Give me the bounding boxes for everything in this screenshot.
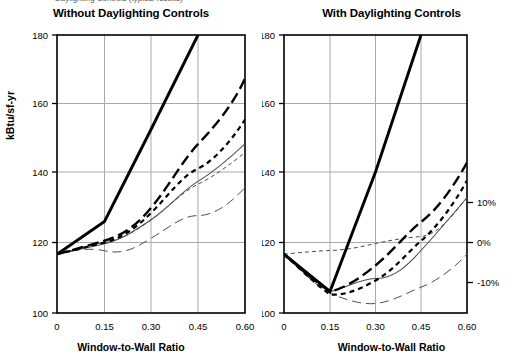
y-tick-160-right: 160 [262, 98, 275, 109]
y-tick-100-left: 100 [32, 308, 48, 319]
plot-right: 180 160 140 120 100 0 0.15 0.30 0.45 0.6… [262, 0, 521, 359]
x-tick-030-right: 0.30 [366, 321, 385, 332]
x-tick-015-left: 0.15 [95, 321, 114, 332]
y-tick-120-left: 120 [32, 237, 48, 248]
x-tick-0-right: 0 [281, 321, 286, 332]
y-tick-120-right: 120 [262, 237, 275, 248]
panel-without-daylighting: Without Daylighting Controls kBtu/sf-yr … [0, 0, 262, 359]
y-tick-160-left: 160 [32, 98, 48, 109]
panel-with-daylighting: With Daylighting Controls Window-to-Wall… [262, 0, 521, 359]
x-tick-0-left: 0 [54, 321, 59, 332]
plot-left: 180 160 140 120 100 0 0.15 0.30 0.45 0.6… [0, 0, 262, 359]
gridlines-left [57, 35, 245, 313]
y-tick-180-left: 180 [32, 30, 48, 41]
x-tick-045-left: 0.45 [189, 321, 208, 332]
x-tick-045-right: 0.45 [412, 321, 431, 332]
x-tick-060-right: 0.60 [458, 321, 477, 332]
pct-label-minus10: -10% [477, 277, 500, 288]
figure-chart-pair: Daylighting Controls (typical results) W… [0, 0, 521, 359]
pct-label-zero: 0% [477, 237, 491, 248]
pct-label-plus10: 10% [477, 197, 497, 208]
x-tick-030-left: 0.30 [142, 321, 161, 332]
y-tick-140-left: 140 [32, 167, 48, 178]
secondary-axis-ticks-right [467, 203, 473, 283]
x-tick-015-right: 0.15 [321, 321, 340, 332]
y-tick-140-right: 140 [262, 167, 275, 178]
y-tick-180-right: 180 [262, 30, 275, 41]
x-tick-060-left: 0.60 [236, 321, 255, 332]
y-tick-100-right: 100 [262, 308, 275, 319]
